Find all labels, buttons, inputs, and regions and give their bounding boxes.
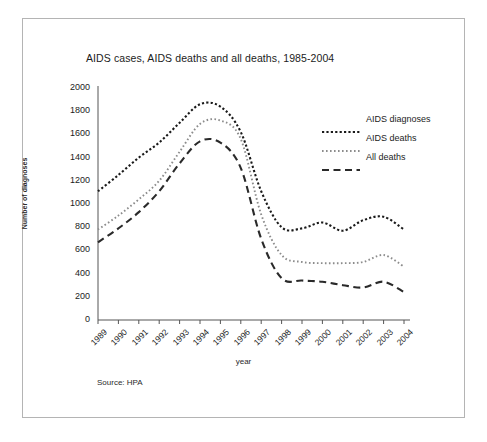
legend-label-1: AIDS diagnoses	[366, 114, 431, 124]
source-note: Source: HPA	[97, 378, 143, 387]
axis-lines	[98, 86, 410, 320]
legend-swatch-1	[322, 120, 360, 123]
y-tick-label: 200	[46, 291, 90, 301]
legend-swatch-3	[322, 158, 360, 161]
y-tick-label: 400	[46, 268, 90, 278]
x-axis-title: year	[0, 357, 487, 366]
y-tick-label: 2000	[46, 82, 90, 92]
y-tick-label: 800	[46, 221, 90, 231]
y-tick-label: 1200	[46, 175, 90, 185]
y-tick-label: 1800	[46, 105, 90, 115]
legend-label-3: All deaths	[366, 152, 406, 162]
y-tick-label: 1600	[46, 128, 90, 138]
y-tick-label: 1000	[46, 198, 90, 208]
y-tick-label: 600	[46, 244, 90, 254]
y-tick-label: 1400	[46, 152, 90, 162]
y-tick-label: 0	[46, 314, 90, 324]
legend-label-2: AIDS deaths	[366, 133, 417, 143]
legend-swatch-2	[322, 139, 360, 142]
